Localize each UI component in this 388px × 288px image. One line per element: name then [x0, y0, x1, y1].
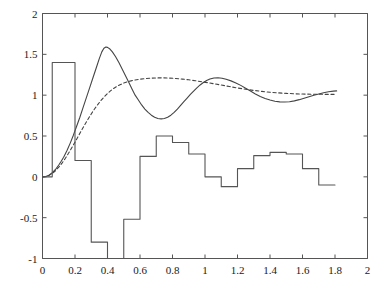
- ytick-label-5: 1.5: [24, 49, 38, 60]
- xtick-label-4: 0.8: [166, 265, 180, 276]
- ytick-label-4: 1: [32, 90, 38, 101]
- series-step-control-signal: [43, 63, 336, 259]
- ytick-label-2: 0: [32, 171, 38, 182]
- chart-figure: 00.20.40.60.811.21.41.61.82-1-0.500.511.…: [0, 0, 388, 288]
- ytick-label-3: 0.5: [24, 131, 38, 142]
- series-oscillatory-response: [43, 47, 337, 177]
- xtick-label-5: 1: [202, 265, 208, 276]
- xtick-label-9: 1.8: [328, 265, 342, 276]
- ytick-label-6: 2: [32, 8, 38, 19]
- xtick-label-0: 0: [40, 265, 46, 276]
- ytick-label-0: -1: [28, 253, 37, 264]
- xtick-label-8: 1.6: [296, 265, 310, 276]
- xtick-label-7: 1.4: [263, 265, 277, 276]
- xtick-label-3: 0.6: [133, 265, 147, 276]
- xtick-label-2: 0.4: [101, 265, 115, 276]
- chart-plot-area: [0, 0, 388, 288]
- xtick-label-10: 2: [365, 265, 371, 276]
- ytick-label-1: -0.5: [20, 212, 37, 223]
- xtick-label-1: 0.2: [68, 265, 82, 276]
- xtick-label-6: 1.2: [231, 265, 245, 276]
- series-smoothed-response: [43, 78, 337, 177]
